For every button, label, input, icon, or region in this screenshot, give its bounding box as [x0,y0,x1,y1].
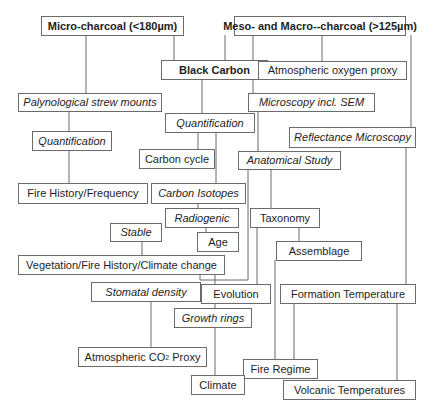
node-growth-rings: Growth rings [174,308,252,328]
node-atmospheric-oxygen-proxy: Atmospheric oxygen proxy [258,61,407,80]
node-climate: Climate [191,375,245,395]
node-formation-temperature: Formation Temperature [280,284,416,304]
co2-label-main: Atmospheric CO [85,352,166,363]
node-age: Age [197,232,239,252]
node-fire-history-frequency: Fire History/Frequency [18,183,148,204]
node-radiogenic: Radiogenic [165,208,239,228]
node-micro-charcoal: Micro-charcoal (<180µm) [41,16,184,36]
node-anatomical-study: Anatomical Study [238,151,341,170]
node-microscopy-sem: Microscopy incl. SEM [248,93,375,112]
node-taxonomy: Taxonomy [250,208,320,228]
node-reflectance-microscopy: Reflectance Microscopy [289,127,416,148]
node-atmospheric-co2-proxy: Atmospheric CO2 Proxy [78,347,207,367]
node-carbon-isotopes: Carbon Isotopes [151,183,246,204]
node-palynological-strew-mounts: Palynological strew mounts [18,93,162,112]
charcoal-flowchart: Micro-charcoal (<180µm) Meso- and Macro-… [0,0,437,414]
node-vegetation-fire-climate: Vegetation/Fire History/Climate change [18,255,225,275]
node-meso-macro-charcoal: Meso- and Macro--charcoal (>125µm) [234,16,406,36]
node-quantification-mid: Quantification [165,113,255,133]
node-volcanic-temperatures: Volcanic Temperatures [283,380,416,400]
node-quantification-left: Quantification [32,131,112,151]
node-stable: Stable [110,223,162,242]
node-assemblage: Assemblage [276,241,362,261]
node-evolution: Evolution [201,284,271,304]
node-stomatal-density: Stomatal density [91,282,201,302]
co2-label-suffix: Proxy [169,352,200,363]
node-black-carbon: Black Carbon [161,60,268,80]
node-fire-regime: Fire Regime [243,359,318,379]
node-carbon-cycle: Carbon cycle [139,149,215,169]
